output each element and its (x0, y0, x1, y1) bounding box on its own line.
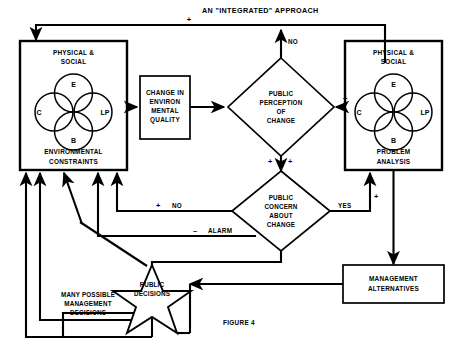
edge-decisions-diagonal-to-constraints (80, 222, 147, 266)
venn-circle-bottom-right (375, 112, 413, 150)
edge-label-yes-up-sign: + (374, 192, 379, 201)
concern-line1: PUBLIC (269, 194, 294, 201)
change-box-line4: QUALITY (150, 116, 180, 124)
many-decisions-line2: MANAGEMENT (64, 300, 111, 307)
edge-label-top-feedback-sign: + (187, 15, 192, 24)
concern-line3: ABOUT (269, 212, 292, 219)
problem-analysis-footer-line1: PROBLEM (377, 148, 411, 155)
public-decisions-line2: DECISIONS (134, 290, 170, 297)
node-public-perception-of-change[interactable]: PUBLIC PERCEPTION OF CHANGE (228, 58, 334, 156)
environmental-constraints-venn: E C LP B (35, 74, 112, 150)
problem-analysis-header-line1: PHYSICAL & (373, 49, 414, 56)
concern-line4: CHANGE (267, 221, 296, 228)
public-decisions-line1: PUBLIC (140, 281, 165, 288)
venn-label-lp-left: LP (101, 109, 110, 116)
node-environmental-constraints[interactable]: PHYSICAL & SOCIAL E C LP B ENVIRONMENTAL… (20, 41, 127, 170)
edge-label-no-up: NO (288, 38, 298, 45)
perception-line4: CHANGE (267, 117, 296, 124)
edge-label-concern-no-sign: + (156, 201, 161, 210)
venn-label-lp-right: LP (421, 109, 430, 116)
venn-circle-top-right (375, 74, 413, 112)
management-alternatives-line1: MANAGEMENT (369, 275, 418, 282)
edge-label-alarm-sign: – (193, 226, 197, 235)
edge-label-concern-yes: YES (338, 202, 352, 209)
environmental-constraints-header-line2: SOCIAL (61, 58, 87, 65)
concern-line2: CONCERN (264, 203, 297, 210)
edge-label-between-diamonds-right-sign: + (288, 157, 293, 166)
change-box-line2: ENVIRON (150, 98, 181, 105)
venn-label-b-right: B (391, 137, 396, 144)
edge-label-between-diamonds-left-sign: + (268, 157, 273, 166)
venn-label-c-left: C (36, 109, 41, 116)
node-problem-analysis[interactable]: PHYSICAL & SOCIAL E C LP B PROBLEM ANALY… (345, 41, 442, 170)
management-alternatives-line2: ALTERNATIVES (368, 285, 420, 292)
edge-concern-to-public-decisions (152, 251, 281, 268)
venn-label-e-left: E (71, 81, 76, 88)
figure-title: AN "INTEGRATED" APPROACH (202, 6, 319, 15)
problem-analysis-footer-line2: ANALYSIS (377, 158, 411, 165)
problem-analysis-venn: E C LP B (355, 74, 432, 150)
venn-circle-bottom-left (55, 112, 93, 150)
node-management-alternatives[interactable]: MANAGEMENT ALTERNATIVES (343, 265, 444, 303)
node-change-in-environmental-quality[interactable]: CHANGE IN ENVIRON MENTAL QUALITY (140, 76, 190, 139)
environmental-constraints-footer-line2: CONSTRAINTS (49, 158, 98, 165)
edge-label-concern-no: NO (172, 202, 182, 209)
environmental-constraints-header-line1: PHYSICAL & (53, 49, 94, 56)
environmental-constraints-footer-line1: ENVIRONMENTAL (44, 148, 103, 155)
many-decisions-line1: MANY POSSIBLE (61, 291, 115, 298)
flowchart-diagram: AN "INTEGRATED" APPROACH + NO PHYSICAL &… (0, 0, 451, 348)
perception-line1: PUBLIC (269, 90, 294, 97)
concern-diamond (232, 171, 330, 251)
venn-circle-top-left (55, 74, 93, 112)
edge-no-feedback-to-constraints (36, 25, 385, 63)
edge-label-alarm: ALARM (208, 227, 232, 234)
change-box-line3: MENTAL (151, 107, 179, 114)
edge-decisions-diagonal-arrow (64, 173, 82, 224)
venn-label-e-right: E (391, 81, 396, 88)
change-box-line1: CHANGE IN (146, 89, 184, 96)
perception-line3: OF (276, 108, 285, 115)
figure-canvas: AN "INTEGRATED" APPROACH + NO PHYSICAL &… (0, 0, 451, 348)
management-alternatives-box (343, 265, 444, 303)
perception-line2: PERCEPTION (260, 99, 303, 106)
figure-caption: FIGURE 4 (223, 319, 255, 326)
venn-label-b-left: B (71, 137, 76, 144)
node-public-concern-about-change[interactable]: PUBLIC CONCERN ABOUT CHANGE (232, 171, 330, 251)
venn-label-c-right: C (356, 109, 361, 116)
perception-diamond (228, 58, 334, 156)
problem-analysis-header-line2: SOCIAL (381, 58, 407, 65)
